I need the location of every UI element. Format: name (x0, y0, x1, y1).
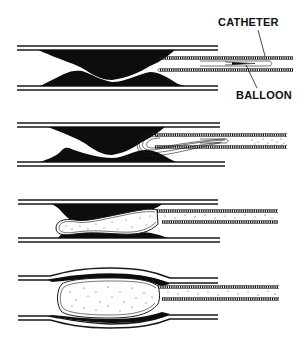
catheter (157, 210, 278, 224)
balloon-label: BALLOON (236, 89, 292, 101)
catheter (156, 57, 293, 72)
catheter-label: CATHETER (218, 16, 279, 28)
balloon-contrast-fill (252, 139, 285, 146)
panel-4-balloon-fully-inflated (18, 268, 279, 328)
catheter-leader-line (258, 30, 265, 56)
panel-1-catheter-positioned: CATHETER BALLOON (17, 16, 293, 101)
panel-2-balloon-in-stenosis (17, 123, 287, 166)
angioplasty-diagram: CATHETER BALLOON (0, 0, 308, 342)
panel-3-balloon-inflating (18, 200, 278, 242)
balloon-deflated (200, 61, 272, 66)
catheter (158, 286, 279, 301)
